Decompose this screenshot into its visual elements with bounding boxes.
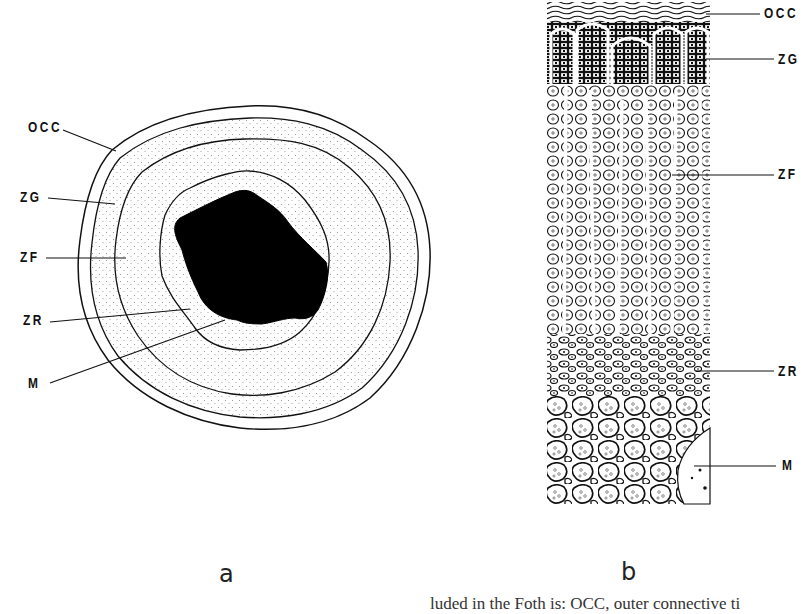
label-zg-a: ZG (20, 189, 42, 205)
label-zg-b: ZG (778, 51, 800, 67)
panel-letter-a: a (219, 560, 234, 588)
label-occ-b: OCC (764, 5, 798, 21)
leader-occ-a (63, 130, 116, 151)
label-zf-a: ZF (20, 249, 40, 265)
label-zr-b: ZR (778, 363, 799, 379)
panel-b-drawing (547, 2, 776, 504)
zf-layer-b (547, 84, 710, 334)
label-m-a: M (28, 375, 40, 391)
label-zf-b: ZF (778, 166, 798, 182)
label-m-b: M (782, 457, 794, 473)
occ-layer-b (547, 2, 710, 22)
panel-letter-b: b (621, 558, 636, 586)
panel-a-drawing (46, 106, 430, 430)
label-occ-a: OCC (28, 119, 62, 135)
figure-caption: luded in the Foth is: OCC, outer connect… (430, 594, 812, 614)
zr-layer-b (547, 334, 710, 396)
label-zr-a: ZR (23, 312, 44, 328)
